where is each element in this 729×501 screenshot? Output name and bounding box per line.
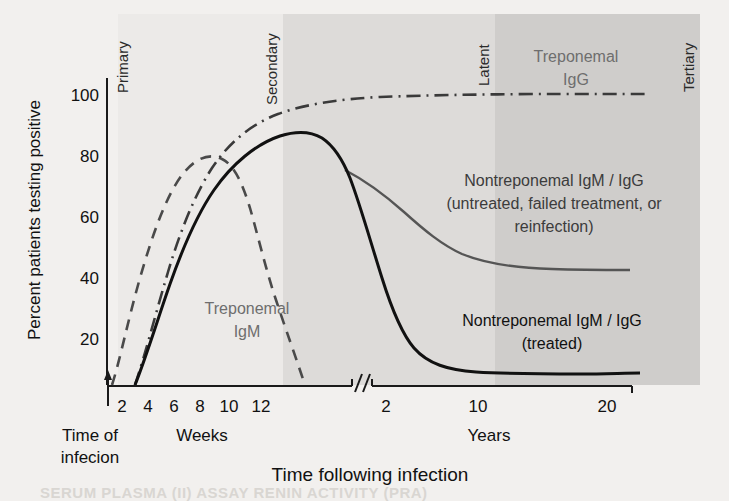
y-tick-40: 40 [80,269,99,288]
x-axis-label: Time following infection [272,464,469,485]
label-nontrep-treated-line2: (treated) [522,335,582,352]
x-tick-year-20: 20 [598,397,617,416]
x-tick-week-8: 8 [195,397,204,416]
y-tick-60: 60 [80,208,99,227]
page-bleed-through-text: SERUM PLASMA (II) ASSAY RENIN ACTIVITY (… [40,484,428,501]
label-treponemal-igm-line2: IgM [234,323,261,340]
origin-label-line1: Time of [62,426,118,445]
y-axis-label: Percent patients testing positive [25,100,44,340]
y-tick-80: 80 [80,147,99,166]
y-tick-100: 100 [71,86,99,105]
label-nontrep-untreated-line1: Nontreponemal IgM / IgG [464,172,644,189]
x-tick-week-10: 10 [220,397,239,416]
phase-label-tertiary: Tertiary [680,42,697,92]
x-tick-week-12: 12 [252,397,271,416]
phase-label-primary: Primary [114,41,131,93]
y-tick-20: 20 [80,330,99,349]
label-treponemal-igm-line1: Treponemal [205,300,290,317]
label-nontrep-treated-line1: Nontreponemal IgM / IgG [462,312,642,329]
origin-label-line2: infecion [61,448,120,467]
x-tick-week-4: 4 [143,397,152,416]
x-tick-week-2: 2 [117,397,126,416]
x-tick-week-6: 6 [169,397,178,416]
weeks-axis-label: Weeks [176,426,228,445]
phase-label-secondary: Secondary [263,33,280,105]
label-nontrep-untreated-line2: (untreated, failed treatment, or [446,195,662,212]
label-treponemal-igg-line2: IgG [563,71,589,88]
phase-label-latent: Latent [475,43,492,86]
label-treponemal-igg-line1: Treponemal [534,48,619,65]
label-nontrep-untreated-line3: reinfection) [514,218,593,235]
years-axis-label: Years [468,426,511,445]
x-tick-year-2: 2 [381,397,390,416]
x-tick-year-10: 10 [469,397,488,416]
